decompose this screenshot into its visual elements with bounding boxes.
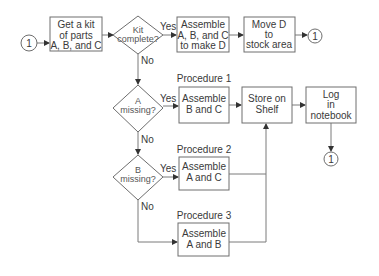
- svg-text:A and C: A and C: [186, 172, 222, 183]
- svg-text:A, B, and C: A, B, and C: [50, 40, 101, 51]
- svg-text:1: 1: [312, 31, 318, 42]
- decision-b-missing: B missing?: [113, 155, 163, 200]
- node-assemble-ac: Assemble A and C: [179, 157, 229, 190]
- svg-text:complete?: complete?: [117, 34, 159, 44]
- svg-text:missing?: missing?: [120, 105, 156, 115]
- edge-label-no: No: [141, 201, 154, 212]
- edge-label-no: No: [141, 55, 154, 66]
- edge-label-yes: Yes: [160, 21, 176, 32]
- svg-text:Get a kit: Get a kit: [57, 19, 94, 30]
- edge-label-yes: Yes: [160, 93, 176, 104]
- node-log-notebook: Log in notebook: [306, 87, 356, 123]
- svg-text:Shelf: Shelf: [256, 104, 279, 115]
- svg-text:Assemble: Assemble: [182, 93, 226, 104]
- node-assemble-bc: Assemble B and C: [179, 87, 229, 123]
- procedure-3-title: Procedure 3: [177, 210, 232, 221]
- node-get-kit: Get a kit of parts A, B, and C: [50, 17, 102, 51]
- svg-text:Store on: Store on: [248, 93, 286, 104]
- node-assemble-ab: Assemble A and B: [178, 223, 229, 256]
- procedure-2-title: Procedure 2: [177, 144, 232, 155]
- flowchart: 1 1 1 Get a kit of parts A, B, and C Kit…: [0, 0, 379, 276]
- procedure-1-title: Procedure 1: [177, 73, 232, 84]
- svg-text:in: in: [327, 99, 335, 110]
- connector-end-top: 1: [308, 29, 322, 43]
- decision-kit-complete: Kit complete?: [113, 16, 163, 54]
- node-assemble-abc: Assemble A, B, and C to make D: [177, 17, 229, 52]
- svg-text:1: 1: [328, 154, 334, 165]
- svg-text:Assemble: Assemble: [182, 161, 226, 172]
- svg-text:Assemble: Assemble: [182, 228, 226, 239]
- svg-text:missing?: missing?: [120, 174, 156, 184]
- svg-text:stock area: stock area: [246, 39, 293, 50]
- node-move-d: Move D to stock area: [244, 17, 295, 52]
- edge-label-no: No: [141, 134, 154, 145]
- svg-text:Assemble: Assemble: [181, 19, 225, 30]
- decision-a-missing: A missing?: [113, 85, 163, 132]
- connector-start: 1: [21, 35, 37, 51]
- svg-text:1: 1: [26, 38, 32, 49]
- edge-label-yes: Yes: [160, 163, 176, 174]
- node-store-shelf: Store on Shelf: [242, 87, 292, 123]
- svg-text:notebook: notebook: [310, 110, 352, 121]
- connector-end-log: 1: [324, 152, 338, 166]
- svg-text:B and C: B and C: [186, 104, 222, 115]
- svg-text:to make D: to make D: [180, 40, 226, 51]
- svg-text:A and B: A and B: [186, 239, 221, 250]
